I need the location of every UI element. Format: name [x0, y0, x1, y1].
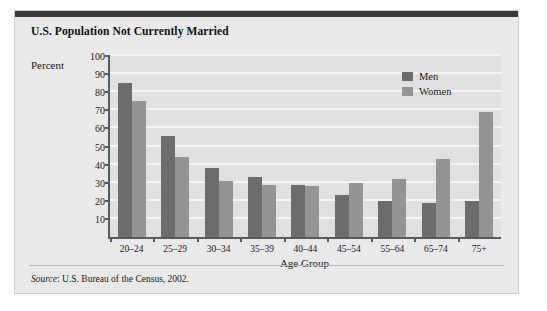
- y-tick-label-70: 70: [95, 105, 105, 116]
- y-tick-label-20: 20: [95, 195, 105, 206]
- x-tick-label: 55–64: [380, 244, 404, 254]
- x-tick-label: 45–54: [337, 244, 361, 254]
- y-tick-label-50: 50: [95, 141, 105, 152]
- legend-label: Women: [419, 86, 451, 97]
- chart-title: U.S. Population Not Currently Married: [31, 25, 229, 37]
- bar-women: [436, 159, 450, 237]
- x-tick-mark: [110, 237, 112, 242]
- x-tick-label: 30–34: [207, 244, 231, 254]
- legend-swatch-women: [402, 87, 413, 96]
- source-label: Source: [31, 274, 57, 284]
- bar-women: [349, 183, 363, 237]
- bar-women: [392, 179, 406, 237]
- x-tick-label: 25–29: [163, 244, 187, 254]
- legend-label: Men: [419, 71, 438, 82]
- source-divider: [29, 265, 504, 266]
- x-tick-mark: [197, 237, 199, 242]
- bar-women: [132, 101, 146, 237]
- bar-men: [422, 203, 436, 237]
- y-tick-label-40: 40: [95, 159, 105, 170]
- bar-women: [175, 157, 189, 237]
- figure-container: U.S. Population Not Currently Married Pe…: [14, 10, 519, 294]
- bar-group: 25–29: [153, 56, 196, 237]
- legend-entry: Men: [402, 71, 451, 82]
- x-tick-label: 75+: [472, 244, 487, 254]
- x-tick-label: 20–24: [120, 244, 144, 254]
- bar-group: 40–44: [284, 56, 327, 237]
- bar-group: 45–54: [327, 56, 370, 237]
- x-tick-label: 65–74: [424, 244, 448, 254]
- bar-men: [465, 201, 479, 237]
- y-axis-title: Percent: [31, 59, 64, 71]
- bar-men: [335, 195, 349, 237]
- x-tick-mark: [284, 237, 286, 242]
- x-tick-label: 35–39: [250, 244, 274, 254]
- source-text: : U.S. Bureau of the Census, 2002.: [57, 274, 189, 284]
- bar-women: [305, 186, 319, 237]
- legend-swatch-men: [402, 72, 413, 81]
- bar-men: [118, 83, 132, 237]
- source-note: Source: U.S. Bureau of the Census, 2002.: [31, 274, 189, 284]
- bar-women: [479, 112, 493, 237]
- y-tick-label-100: 100: [90, 51, 105, 62]
- y-tick-label-30: 30: [95, 177, 105, 188]
- x-tick-mark: [153, 237, 155, 242]
- bar-women: [219, 181, 233, 237]
- x-axis-title: Age Group: [108, 257, 501, 269]
- x-tick-mark: [327, 237, 329, 242]
- x-tick-mark: [371, 237, 373, 242]
- bar-women: [262, 185, 276, 237]
- bar-men: [205, 168, 219, 237]
- y-tick-label-10: 10: [95, 213, 105, 224]
- x-tick-mark: [240, 237, 242, 242]
- bar-men: [378, 201, 392, 237]
- y-tick-label-80: 80: [95, 87, 105, 98]
- bar-group: 30–34: [197, 56, 240, 237]
- bar-group: 75+: [458, 56, 501, 237]
- x-tick-label: 40–44: [294, 244, 318, 254]
- y-tick-label-90: 90: [95, 69, 105, 80]
- x-tick-mark: [458, 237, 460, 242]
- bar-men: [248, 177, 262, 237]
- bar-men: [291, 185, 305, 237]
- bar-group: 20–24: [110, 56, 153, 237]
- legend-entry: Women: [402, 86, 451, 97]
- y-tick-label-60: 60: [95, 123, 105, 134]
- x-tick-mark: [414, 237, 416, 242]
- chart-legend: MenWomen: [402, 71, 451, 101]
- bar-group: 35–39: [240, 56, 283, 237]
- bar-men: [161, 136, 175, 237]
- figure-top-rule: [15, 11, 518, 17]
